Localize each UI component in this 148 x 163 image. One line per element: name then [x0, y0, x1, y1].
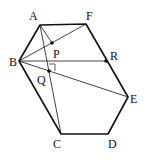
dot-R [104, 59, 108, 63]
label-F: F [86, 9, 93, 23]
label-Q: Q [37, 73, 46, 87]
label-E: E [130, 92, 137, 106]
geometry-diagram: A B C D E F P Q R [0, 0, 148, 163]
dot-P [50, 41, 54, 45]
segment-BE [19, 61, 128, 97]
dot-Q [47, 69, 51, 73]
label-P: P [53, 47, 60, 61]
label-A: A [29, 9, 38, 23]
label-C: C [53, 137, 61, 151]
label-D: D [108, 137, 117, 151]
label-B: B [9, 55, 17, 69]
label-R: R [110, 49, 118, 63]
